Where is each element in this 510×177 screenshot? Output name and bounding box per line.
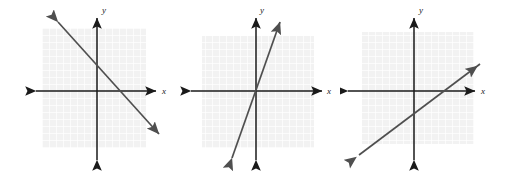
y-axis-label-1: y [101,5,106,15]
graph-panel-2: y x [170,0,340,177]
graph-panel-3: y x [340,0,510,177]
y-axis-label-3: y [418,5,423,15]
grid-background-2 [202,36,314,148]
three-graph-figure: y x y x [0,0,510,177]
x-axis-label-1: x [161,86,166,96]
grid-background-3 [362,32,474,144]
x-axis-label-3: x [480,86,485,96]
y-axis-label-2: y [259,5,264,15]
x-axis-label-2: x [326,86,331,96]
grid-background-1 [42,28,146,148]
graph-panel-1: y x [0,0,170,177]
